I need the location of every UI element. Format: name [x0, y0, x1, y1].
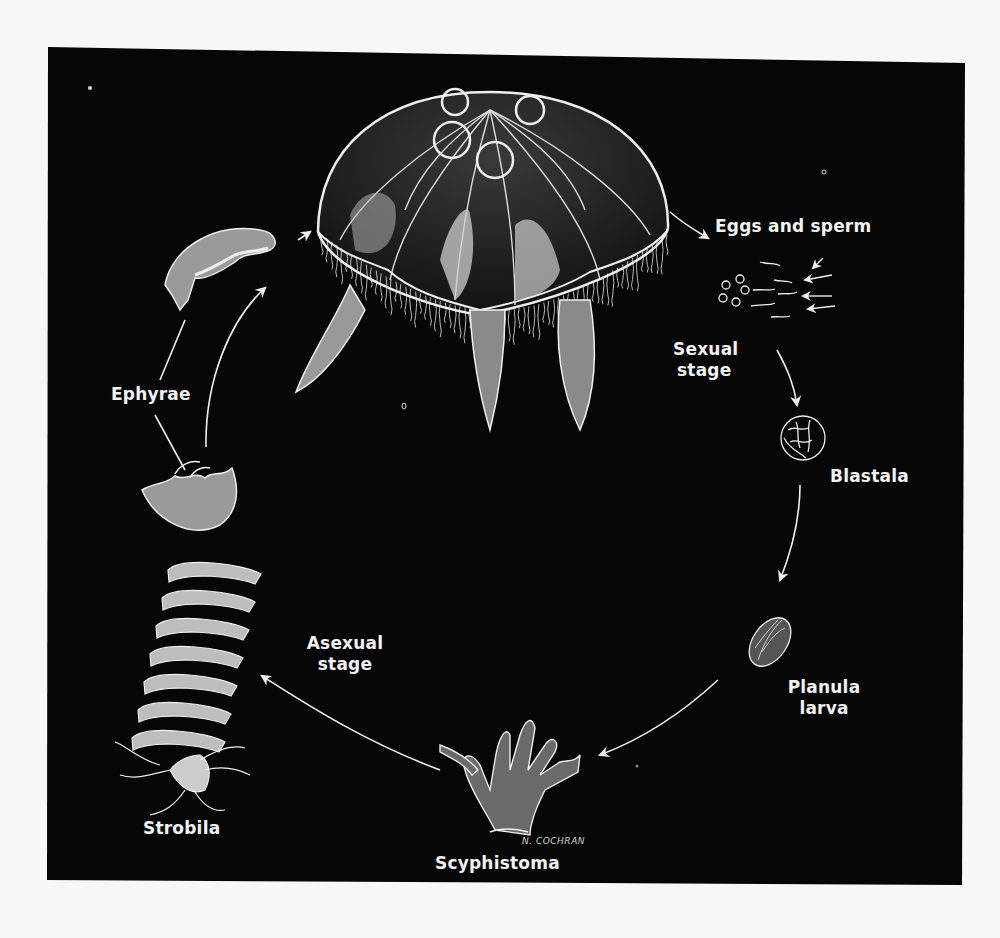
asexual-stage-line1: Asexual: [302, 633, 388, 654]
ephyrae-label: Ephyrae: [111, 384, 191, 405]
scyphistoma-label: Scyphistoma: [435, 853, 560, 874]
blastala-label: Blastala: [830, 466, 909, 487]
planula-line2: larva: [784, 698, 864, 719]
strobila-label: Strobila: [143, 818, 220, 839]
asexual-stage-line2: stage: [302, 654, 388, 675]
sexual-stage-line2: stage: [673, 360, 738, 381]
planula-line1: Planula: [784, 677, 864, 698]
sexual-stage-line1: Sexual: [673, 339, 738, 360]
sexual-stage-label: Sexual stage: [673, 339, 738, 381]
life-cycle-diagram: Eggs and sperm Sexual stage Blastala Pla…: [0, 0, 1000, 938]
planula-larva-label: Planula larva: [784, 677, 864, 719]
artist-signature: N. COCHRAN: [522, 836, 585, 846]
asexual-stage-label: Asexual stage: [302, 633, 388, 675]
eggs-sperm-label: Eggs and sperm: [715, 216, 871, 237]
